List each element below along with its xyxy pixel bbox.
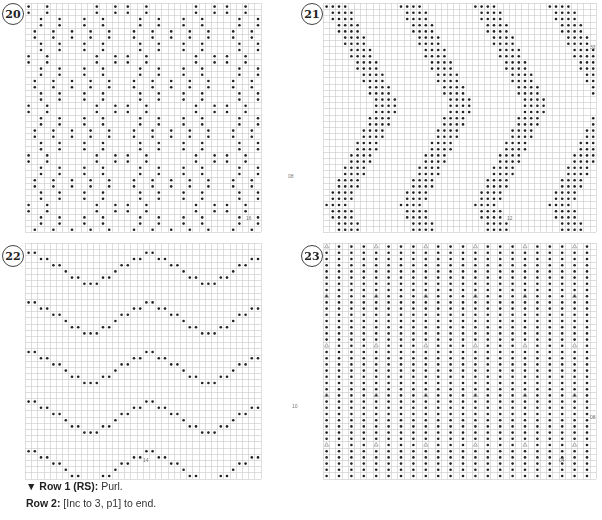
row-2-label: Row 2: <box>26 497 60 509</box>
stitch-repeat-label: 04 <box>559 457 565 463</box>
row-1-label: Row 1 (RS): <box>39 480 98 492</box>
stitch-repeat-label: 16 <box>246 215 252 221</box>
row-1-text: Purl. <box>98 480 123 492</box>
row-repeat-label: 08 <box>590 414 596 420</box>
row-repeat-label: 32 <box>590 44 596 50</box>
chart-number-badge: 20 <box>2 3 24 25</box>
pattern-instructions: ▼ Row 1 (RS): Purl. Row 2: [Inc to 3, p1… <box>26 478 156 512</box>
chart-number-badge: 21 <box>301 3 323 25</box>
stitch-repeat-label: 14 <box>143 457 149 463</box>
knitting-chart-grid <box>323 243 597 480</box>
row-repeat-label: 10 <box>292 403 298 409</box>
chart-number-badge: 22 <box>2 245 24 267</box>
knitting-chart-grid <box>25 243 262 480</box>
instruction-row-1: ▼ Row 1 (RS): Purl. <box>26 478 156 495</box>
stitch-repeat-label: 12 <box>507 215 513 221</box>
knitting-chart-grid <box>323 3 597 233</box>
triangle-bullet-icon: ▼ <box>26 480 36 492</box>
row-repeat-label: 08 <box>288 173 294 179</box>
row-2-text: [Inc to 3, p1] to end. <box>60 497 156 509</box>
knitting-chart-grid <box>25 3 262 233</box>
chart-number-badge: 23 <box>301 245 323 267</box>
instruction-row-2: Row 2: [Inc to 3, p1] to end. <box>26 495 156 512</box>
